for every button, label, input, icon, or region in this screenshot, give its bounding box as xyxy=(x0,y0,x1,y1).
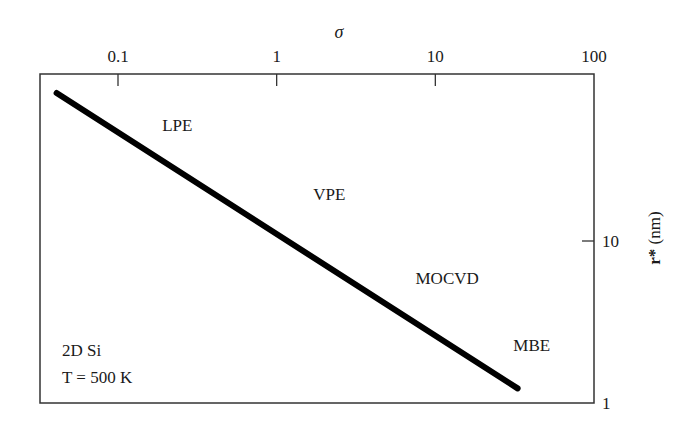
inset-text-material: 2D Si xyxy=(62,341,101,360)
chart: 0.1110100 110 σ r* (nm) LPEVPEMOCVDMBE 2… xyxy=(0,0,694,422)
inset-text-temperature: T = 500 K xyxy=(62,368,133,387)
x-axis-title: σ xyxy=(335,22,345,42)
annotations-group: LPEVPEMOCVDMBE xyxy=(162,116,550,355)
annotation-mbe: MBE xyxy=(513,336,550,355)
x-axis-ticks: 0.1110100 xyxy=(107,47,606,86)
series-group xyxy=(57,93,518,388)
plot-frame xyxy=(40,74,594,403)
annotation-vpe: VPE xyxy=(313,185,345,204)
y-axis-title-unit: (nm) xyxy=(645,211,664,248)
annotation-lpe: LPE xyxy=(162,116,192,135)
y-axis-title: r* (nm) xyxy=(645,211,664,264)
y-tick-label: 1 xyxy=(602,394,611,413)
x-tick-label: 0.1 xyxy=(107,47,128,66)
series-line xyxy=(57,93,518,388)
x-tick-label: 100 xyxy=(581,47,607,66)
x-tick-label: 10 xyxy=(427,47,444,66)
annotation-mocvd: MOCVD xyxy=(416,269,479,288)
y-tick-label: 10 xyxy=(602,232,619,251)
y-axis-ticks: 110 xyxy=(582,232,619,413)
y-axis-title-symbol: r* xyxy=(645,249,664,265)
x-tick-label: 1 xyxy=(272,47,281,66)
